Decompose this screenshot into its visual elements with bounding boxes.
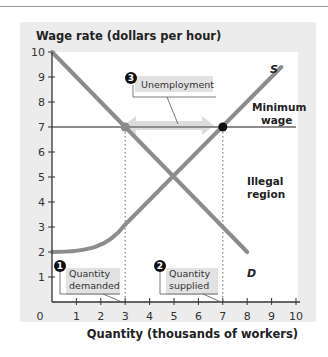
x-tick-label: 8	[244, 310, 251, 323]
y-tick-label: 9	[38, 71, 45, 84]
chart: Wage rate (dollars per hour) 12345678910…	[0, 0, 328, 357]
callout-text-line2: demanded	[69, 280, 120, 291]
x-tick-label: 10	[289, 310, 303, 323]
callout-text-line2: supplied	[169, 280, 209, 291]
y-tick-label: 2	[38, 246, 45, 259]
y-tick-label: 10	[31, 46, 45, 59]
callout-text-line1: Quantity	[169, 268, 210, 279]
callout-number: 1	[57, 261, 63, 271]
x-tick-label: 3	[122, 310, 129, 323]
illegal-region-label-line1: Illegal	[247, 175, 283, 187]
y-tick-label: 3	[38, 221, 45, 234]
callout-number: 2	[157, 261, 163, 271]
x-tick-label: 6	[195, 310, 202, 323]
point-quantity-demanded	[121, 123, 130, 132]
y-tick-label: 8	[38, 96, 45, 109]
demand-label: D	[247, 267, 256, 280]
x-tick-label: 0	[37, 310, 44, 323]
x-tick-label: 4	[146, 310, 153, 323]
illegal-region-label-line2: region	[247, 188, 285, 200]
y-tick-label: 1	[38, 271, 45, 284]
minimum-wage-label-line1: Minimum	[252, 101, 307, 113]
x-tick-label: 9	[268, 310, 275, 323]
y-tick-label: 5	[38, 171, 45, 184]
minimum-wage-label-line2: wage	[261, 114, 292, 126]
y-tick-label: 4	[38, 196, 45, 209]
callout-number: 3	[128, 73, 134, 83]
x-axis-title: Quantity (thousands of workers)	[87, 327, 298, 341]
x-tick-label: 5	[171, 310, 178, 323]
x-tick-label: 7	[219, 310, 226, 323]
y-axis-title: Wage rate (dollars per hour)	[36, 29, 221, 43]
x-tick-label: 2	[97, 310, 104, 323]
y-tick-label: 6	[38, 146, 45, 159]
callout-text-line1: Quantity	[69, 268, 110, 279]
y-tick-label: 7	[38, 121, 45, 134]
supply-label: S	[270, 63, 278, 76]
callout-text: Unemployment	[141, 79, 214, 90]
point-quantity-supplied	[218, 123, 227, 132]
x-tick-label: 1	[73, 310, 80, 323]
